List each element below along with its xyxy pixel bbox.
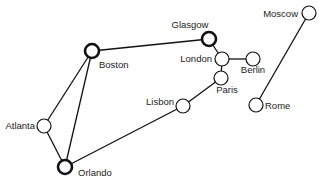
node-boston[interactable] [85, 44, 99, 58]
node-atlanta[interactable] [37, 119, 51, 133]
edges-layer [44, 13, 309, 167]
edge-boston-glasgow [92, 39, 209, 51]
node-lisbon[interactable] [176, 99, 190, 113]
node-paris[interactable] [214, 71, 228, 85]
node-glasgow[interactable] [202, 32, 216, 46]
labels-layer: BostonGlasgowLondonBerlinParisMoscowRome… [5, 8, 298, 178]
node-label-london: London [180, 53, 212, 64]
node-label-glasgow: Glasgow [172, 19, 209, 30]
node-label-paris: Paris [216, 84, 238, 95]
network-graph: BostonGlasgowLondonBerlinParisMoscowRome… [0, 0, 319, 184]
edge-moscow-rome [256, 13, 309, 105]
node-label-atlanta: Atlanta [5, 120, 35, 131]
node-rome[interactable] [249, 98, 263, 112]
edge-boston-atlanta [44, 51, 92, 126]
node-orlando[interactable] [58, 160, 72, 174]
node-label-rome: Rome [265, 100, 290, 111]
node-label-berlin: Berlin [241, 64, 265, 75]
node-label-lisbon: Lisbon [146, 96, 174, 107]
edge-orlando-lisbon [65, 106, 183, 167]
node-label-orlando: Orlando [78, 167, 112, 178]
nodes-layer [37, 6, 316, 174]
edge-boston-orlando [65, 51, 92, 167]
node-label-moscow: Moscow [263, 8, 298, 19]
node-label-boston: Boston [99, 59, 129, 70]
node-moscow[interactable] [302, 6, 316, 20]
node-london[interactable] [215, 52, 229, 66]
